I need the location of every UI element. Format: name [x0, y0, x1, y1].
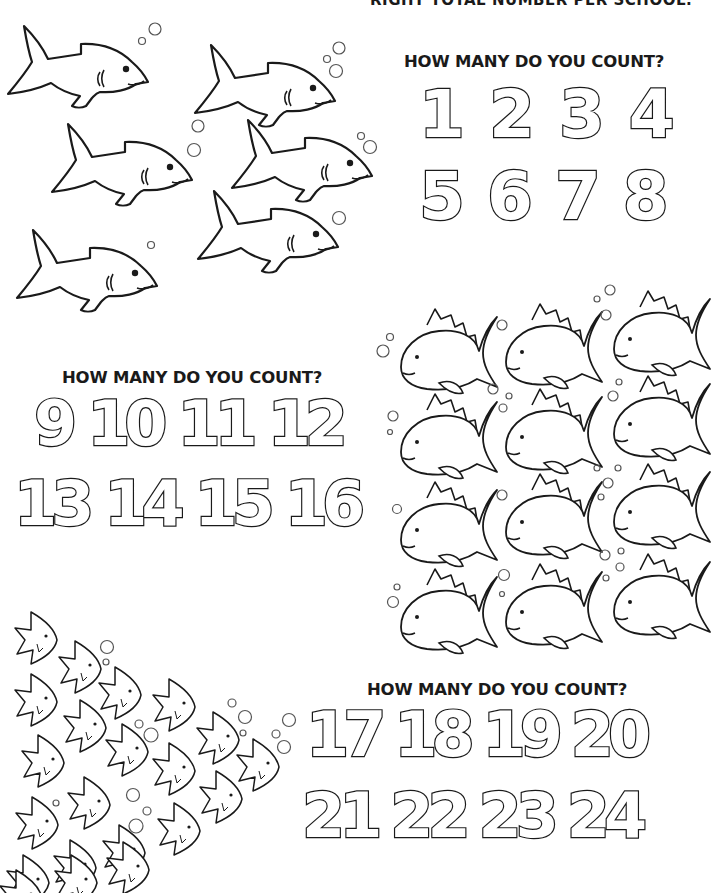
answer-option-10[interactable]: 10: [87, 393, 161, 455]
answer-option-4[interactable]: 4: [629, 82, 675, 148]
answer-option-6[interactable]: 6: [487, 164, 533, 230]
answer-row-angelfish-2: 21 22 23 24: [302, 785, 641, 847]
answer-option-20[interactable]: 20: [571, 704, 645, 766]
answer-option-24[interactable]: 24: [567, 785, 641, 847]
answer-option-15[interactable]: 15: [195, 473, 269, 535]
answer-option-13[interactable]: 13: [14, 473, 88, 535]
shark-school: [8, 26, 372, 312]
answer-row-sharks-1: 1 2 3 4: [419, 82, 675, 148]
answer-option-16[interactable]: 16: [285, 473, 359, 535]
answer-row-sharks-2: 5 6 7 8: [419, 164, 669, 230]
question-sharks: HOW MANY DO YOU COUNT?: [404, 52, 664, 71]
answer-option-22[interactable]: 22: [390, 785, 464, 847]
goldfish-school: [401, 291, 710, 654]
question-angelfish: HOW MANY DO YOU COUNT?: [367, 680, 627, 699]
answer-row-goldfish-1: 9 10 11 12: [34, 393, 342, 455]
answer-option-5[interactable]: 5: [419, 164, 465, 230]
answer-option-8[interactable]: 8: [623, 164, 669, 230]
answer-option-1[interactable]: 1: [419, 82, 465, 148]
answer-option-2[interactable]: 2: [489, 82, 535, 148]
answer-option-19[interactable]: 19: [483, 704, 557, 766]
answer-option-18[interactable]: 18: [394, 704, 468, 766]
answer-option-9[interactable]: 9: [34, 393, 71, 455]
answer-option-12[interactable]: 12: [268, 393, 342, 455]
answer-option-23[interactable]: 23: [479, 785, 553, 847]
answer-option-14[interactable]: 14: [104, 473, 178, 535]
answer-option-11[interactable]: 11: [177, 393, 251, 455]
answer-option-17[interactable]: 17: [306, 704, 380, 766]
answer-option-21[interactable]: 21: [302, 785, 376, 847]
answer-option-3[interactable]: 3: [559, 82, 605, 148]
answer-row-angelfish-1: 17 18 19 20: [306, 704, 645, 766]
answer-option-7[interactable]: 7: [555, 164, 601, 230]
angelfish-school: [0, 612, 279, 893]
question-goldfish: HOW MANY DO YOU COUNT?: [62, 368, 322, 387]
answer-row-goldfish-2: 13 14 15 16: [14, 473, 359, 535]
